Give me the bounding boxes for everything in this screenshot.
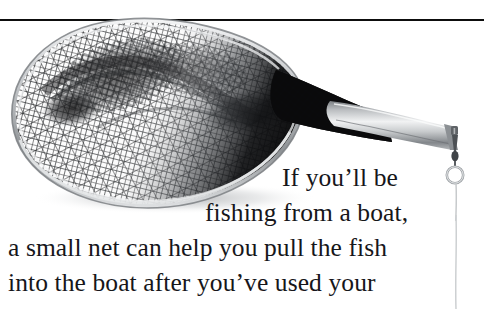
- document-page: If you’ll be fishing from a boat, a smal…: [0, 0, 484, 309]
- body-line-2: fishing from a boat,: [0, 195, 484, 230]
- body-line-1: If you’ll be: [0, 160, 484, 195]
- body-line-3: a small net can help you pull the fish: [0, 230, 484, 265]
- net-handle: [327, 101, 458, 150]
- body-copy: If you’ll be fishing from a boat, a smal…: [0, 160, 484, 300]
- body-line-4: into the boat after you’ve used your: [0, 265, 484, 300]
